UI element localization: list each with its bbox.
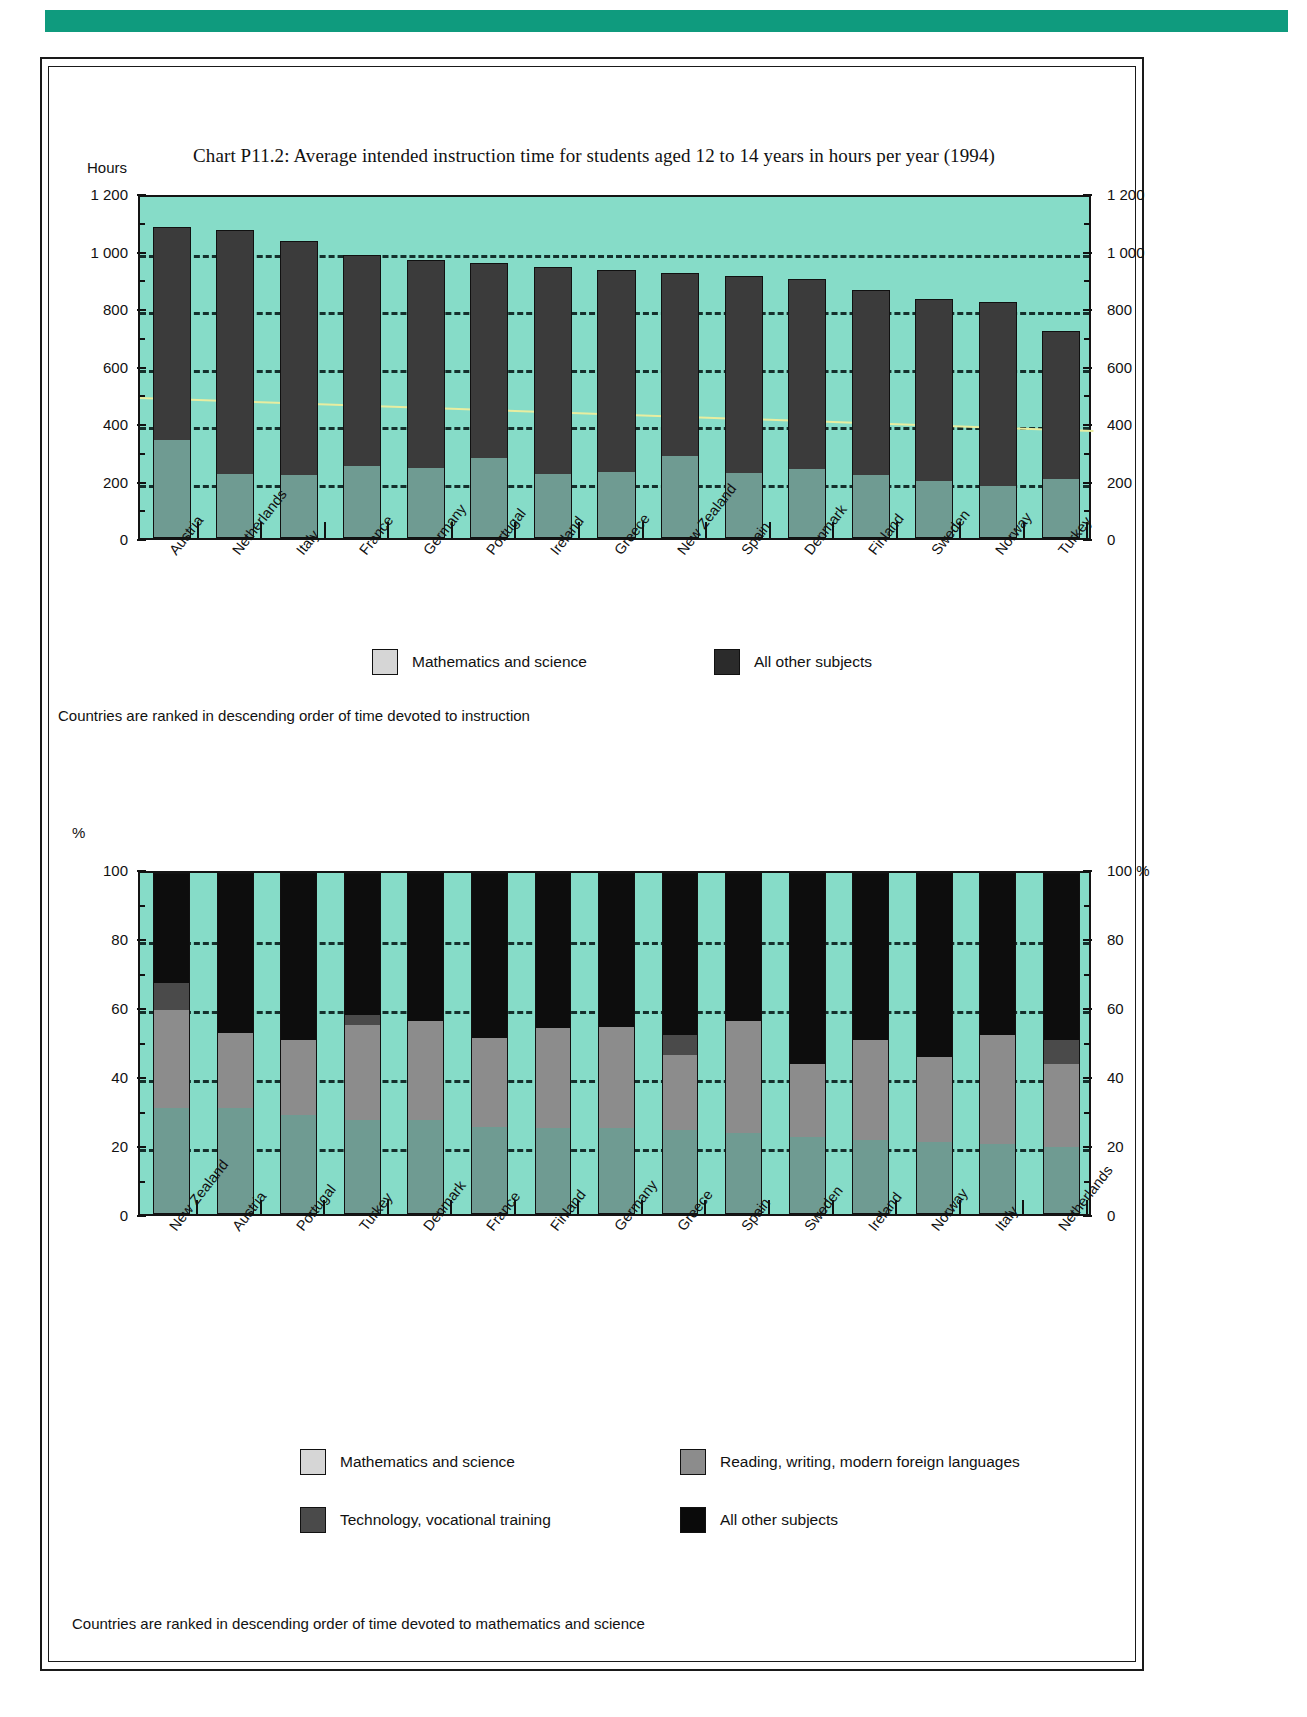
bar-segment-rest bbox=[472, 874, 507, 1038]
bar-austria bbox=[153, 227, 191, 538]
bar-segment-read bbox=[790, 1064, 825, 1137]
bar-segment-other bbox=[916, 300, 952, 481]
bar-segment-rest bbox=[536, 874, 571, 1028]
y-tick-major-l-1200 bbox=[137, 194, 146, 196]
bar-france bbox=[471, 873, 508, 1214]
y-left-tick-60: 60 bbox=[58, 1000, 128, 1017]
y-tick-major-l-40 bbox=[137, 1077, 146, 1079]
legend-swatch-1 bbox=[714, 649, 740, 675]
chart-p112-title: Chart P11.2: Average intended instructio… bbox=[42, 145, 1146, 167]
y-right-tick-1000: 1 000 bbox=[1107, 244, 1145, 261]
y-tick-major-l-0 bbox=[137, 1215, 146, 1217]
bar-segment-rest bbox=[599, 874, 634, 1027]
bar-segment-other bbox=[344, 256, 380, 466]
y-tick-minor-l-70 bbox=[139, 974, 145, 976]
y-left-tick-80: 80 bbox=[58, 931, 128, 948]
chart-p113-unit-label-left: % bbox=[72, 824, 85, 841]
bar-segment-rest bbox=[1044, 874, 1079, 1040]
legend-label-0: Mathematics and science bbox=[412, 653, 587, 671]
y-tick-minor-r-1100 bbox=[1084, 223, 1090, 225]
legend-item-1: All other subjects bbox=[714, 649, 872, 675]
y-tick-major-l-80 bbox=[137, 939, 146, 941]
bar-portugal bbox=[470, 263, 508, 538]
bar-segment-tech bbox=[1044, 1040, 1079, 1064]
legend-label-0: Mathematics and science bbox=[340, 1453, 515, 1471]
bar-segment-read bbox=[472, 1038, 507, 1126]
y-left-tick-800: 800 bbox=[58, 301, 128, 318]
bar-segment-other bbox=[471, 264, 507, 458]
chart-p113-plot bbox=[138, 871, 1091, 1216]
bar-germany bbox=[407, 260, 445, 538]
y-right-tick-60: 60 bbox=[1107, 1000, 1124, 1017]
y-tick-major-l-20 bbox=[137, 1146, 146, 1148]
bar-denmark bbox=[788, 279, 826, 538]
bar-norway bbox=[916, 873, 953, 1214]
y-tick-minor-r-900 bbox=[1084, 280, 1090, 282]
bar-portugal bbox=[280, 873, 317, 1214]
y-tick-major-l-200 bbox=[137, 482, 146, 484]
y-tick-minor-r-90 bbox=[1084, 905, 1090, 907]
y-right-tick-20: 20 bbox=[1107, 1138, 1124, 1155]
bar-segment-other bbox=[217, 231, 253, 474]
bar-segment-rest bbox=[917, 874, 952, 1057]
bar-segment-other bbox=[535, 268, 571, 473]
y-tick-major-r-600 bbox=[1083, 367, 1092, 369]
bar-segment-other bbox=[154, 228, 190, 441]
bar-segment-math bbox=[154, 1108, 189, 1213]
bar-segment-read bbox=[154, 1010, 189, 1108]
y-tick-major-l-400 bbox=[137, 424, 146, 426]
y-right-tick-0: 0 bbox=[1107, 1207, 1115, 1224]
bar-segment-math bbox=[281, 1115, 316, 1213]
bar-segment-rest bbox=[218, 874, 253, 1033]
bar-segment-read bbox=[599, 1027, 634, 1129]
bar-sweden bbox=[915, 299, 953, 538]
y-tick-major-l-60 bbox=[137, 1008, 146, 1010]
chart-p112-plot bbox=[138, 195, 1091, 540]
bar-denmark bbox=[407, 873, 444, 1214]
bar-segment-tech bbox=[663, 1035, 698, 1055]
bar-segment-read bbox=[853, 1040, 888, 1140]
bar-segment-other bbox=[408, 261, 444, 468]
legend-label-1: Reading, writing, modern foreign languag… bbox=[720, 1453, 1020, 1471]
y-tick-major-l-0 bbox=[137, 539, 146, 541]
bar-netherlands bbox=[1043, 873, 1080, 1214]
y-left-tick-400: 400 bbox=[58, 416, 128, 433]
y-tick-major-r-1200 bbox=[1083, 194, 1092, 196]
bar-segment-read bbox=[408, 1021, 443, 1119]
chart-p113-footnote: Countries are ranked in descending order… bbox=[72, 1615, 645, 1632]
y-tick-major-l-600 bbox=[137, 367, 146, 369]
bar-norway bbox=[979, 302, 1017, 538]
legend-label-3: All other subjects bbox=[720, 1511, 838, 1529]
bar-segment-other bbox=[789, 280, 825, 468]
y-right-tick-40: 40 bbox=[1107, 1069, 1124, 1086]
bar-segment-rest bbox=[281, 874, 316, 1040]
legend-swatch-2 bbox=[300, 1507, 326, 1533]
y-tick-minor-r-50 bbox=[1084, 1043, 1090, 1045]
y-tick-minor-r-700 bbox=[1084, 338, 1090, 340]
y-tick-minor-l-700 bbox=[139, 338, 145, 340]
y-tick-major-r-80 bbox=[1083, 939, 1092, 941]
legend-item-3: All other subjects bbox=[680, 1507, 838, 1533]
y-right-tick-600: 600 bbox=[1107, 359, 1132, 376]
y-tick-major-l-800 bbox=[137, 309, 146, 311]
bar-segment-rest bbox=[663, 874, 698, 1035]
y-tick-minor-l-100 bbox=[139, 510, 145, 512]
y-left-tick-200: 200 bbox=[58, 474, 128, 491]
bar-segment-read bbox=[218, 1033, 253, 1108]
bar-italy bbox=[979, 873, 1016, 1214]
y-right-tick-0: 0 bbox=[1107, 531, 1115, 548]
x-tick bbox=[324, 522, 326, 538]
y-left-tick-0: 0 bbox=[58, 1207, 128, 1224]
legend-item-2: Technology, vocational training bbox=[300, 1507, 551, 1533]
bar-segment-other bbox=[853, 291, 889, 475]
bar-new-zealand bbox=[661, 273, 699, 538]
y-right-tick-400: 400 bbox=[1107, 416, 1132, 433]
y-tick-major-r-40 bbox=[1083, 1077, 1092, 1079]
bar-germany bbox=[598, 873, 635, 1214]
bar-segment-tech bbox=[154, 983, 189, 1010]
y-tick-minor-l-10 bbox=[139, 1181, 145, 1183]
y-tick-major-r-800 bbox=[1083, 309, 1092, 311]
legend-label-2: Technology, vocational training bbox=[340, 1511, 551, 1529]
y-right-tick-1200: 1 200 bbox=[1107, 186, 1145, 203]
bar-netherlands bbox=[216, 230, 254, 538]
